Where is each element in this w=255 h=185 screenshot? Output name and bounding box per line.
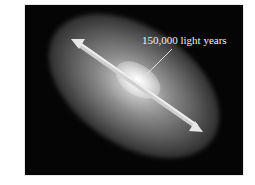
- diameter-arrow-icon: [25, 5, 243, 175]
- distance-label: 150,000 light years: [142, 34, 227, 46]
- galaxy-photo: 150,000 light years: [25, 5, 243, 175]
